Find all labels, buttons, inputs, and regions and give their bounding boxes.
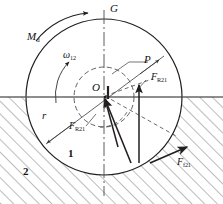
construction-line-o-to-head [105, 79, 152, 96]
reaction-force-component-label: FR21 [69, 121, 85, 132]
center-label: O [92, 82, 100, 93]
reaction-force-label: FR21 [151, 72, 167, 83]
technical-figure: Md ω12 G P O FR21 FR21 Ff21 r 1 2 [0, 0, 223, 204]
point-p-leader-2 [112, 62, 129, 74]
radius-label: r [42, 110, 46, 121]
driving-moment-label: Md [27, 31, 39, 44]
contact-point-label: P [144, 54, 151, 65]
friction-force-label: Ff21 [177, 157, 191, 168]
driving-moment-arc [36, 13, 88, 41]
body-two-label: 2 [23, 166, 29, 177]
body-one-label: 1 [68, 148, 74, 159]
angular-velocity-label: ω12 [63, 50, 76, 61]
center-point-marker [104, 96, 107, 99]
vertical-axis-label: G [110, 3, 118, 14]
